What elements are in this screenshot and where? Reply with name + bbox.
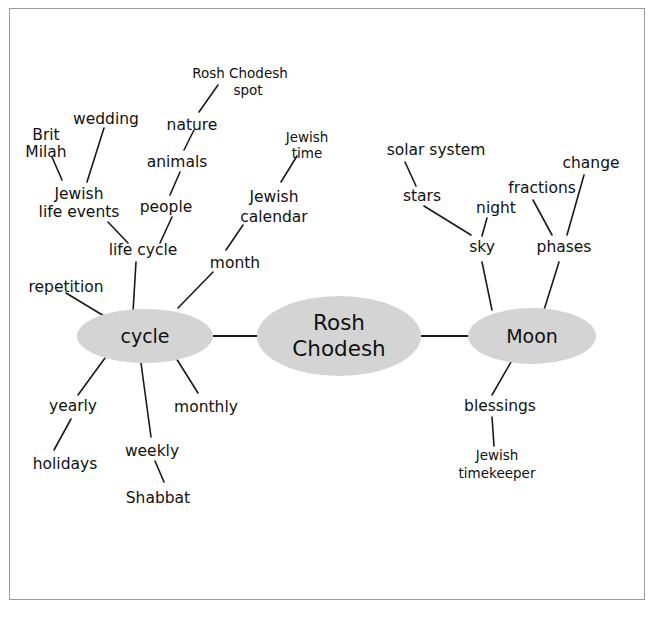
node-label-shabbat: Shabbat	[126, 489, 190, 507]
node-label-nature: nature	[167, 116, 218, 134]
node-label-brit-milah-line1: Brit	[32, 126, 59, 144]
edge-sky-stars	[424, 206, 471, 235]
node-label-people: people	[140, 198, 193, 216]
edge-phases-fractions	[533, 200, 552, 235]
edge-month-jewishcalendar	[226, 225, 243, 250]
edge-cycle-lifecycle	[133, 262, 136, 312]
node-label-jewish-timekeeper-line2: timekeeper	[459, 465, 536, 481]
edge-moon-phases	[544, 262, 559, 310]
node-label-jewish-timekeeper-line1: Jewish	[475, 447, 519, 463]
node-label-jewish-life-events-line2: life events	[39, 203, 120, 221]
node-label-sky: sky	[469, 238, 495, 256]
node-label-rosh-chodesh-spot-line2: spot	[233, 82, 262, 98]
node-label-jewish-life-events-line1: Jewish	[54, 185, 104, 203]
edge-nature-roshchodeshspot	[199, 85, 218, 112]
mind-map-canvas: cycle Rosh Chodesh Moon repetition life …	[0, 0, 655, 618]
node-label-fractions: fractions	[508, 179, 576, 197]
edge-stars-solarsystem	[405, 162, 416, 186]
node-label-animals: animals	[147, 153, 208, 171]
edge-sky-night	[482, 218, 487, 236]
node-label-repetition: repetition	[28, 278, 103, 296]
node-label-stars: stars	[403, 187, 441, 205]
edge-yearly-holidays	[54, 419, 71, 450]
edge-cycle-yearly	[78, 358, 105, 395]
edge-blessings-jewishtimekeeper	[492, 417, 494, 446]
node-label-jewish-time-line1: Jewish	[285, 129, 329, 145]
node-label-night: night	[476, 199, 516, 217]
edge-people-animals	[170, 172, 180, 195]
node-label-moon: Moon	[506, 325, 558, 347]
node-label-holidays: holidays	[33, 455, 98, 473]
node-label-life-cycle: life cycle	[109, 241, 178, 259]
node-label-blessings: blessings	[464, 397, 536, 415]
edge-weekly-shabbat	[155, 461, 164, 482]
edge-cycle-monthly	[176, 358, 198, 393]
node-label-cycle: cycle	[120, 325, 169, 347]
node-label-yearly: yearly	[49, 397, 97, 415]
node-label-solar-system: solar system	[387, 141, 486, 159]
edge-moon-blessings	[492, 362, 511, 395]
node-label-rosh-chodesh-spot-line1: Rosh Chodesh	[192, 65, 288, 81]
mind-map-svg: cycle Rosh Chodesh Moon repetition life …	[0, 0, 655, 618]
node-label-phases: phases	[537, 238, 592, 256]
node-label-jewish-calendar-line2: calendar	[240, 208, 308, 226]
node-label-monthly: monthly	[174, 398, 238, 416]
node-label-change: change	[562, 154, 619, 172]
node-label-jewish-calendar-line1: Jewish	[249, 188, 299, 206]
node-label-jewish-time-line2: time	[292, 145, 323, 161]
edge-jewishlifeevents-wedding	[87, 128, 104, 182]
node-label-weekly: weekly	[125, 442, 179, 460]
node-label-month: month	[210, 254, 260, 272]
node-label-wedding: wedding	[73, 110, 139, 128]
node-label-rosh-chodesh-line2: Chodesh	[292, 336, 386, 361]
edge-cycle-weekly	[141, 363, 151, 437]
edge-cycle-month	[178, 272, 213, 308]
edge-lifecycle-people	[160, 217, 172, 243]
node-label-rosh-chodesh-line1: Rosh	[313, 310, 365, 335]
edge-lifecycle-jewishlifeevents	[108, 222, 128, 243]
edge-moon-sky	[482, 262, 492, 310]
edge-cycle-repetition	[66, 293, 104, 316]
node-label-brit-milah-line2: Milah	[25, 143, 66, 161]
